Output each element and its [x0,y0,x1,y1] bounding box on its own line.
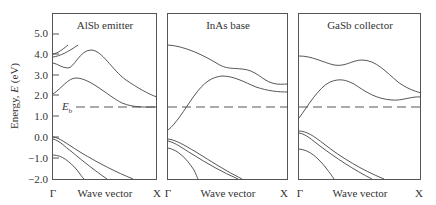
panel-title: AlSb emitter [77,19,134,31]
svg-text:4.0: 4.0 [34,48,48,60]
panel-frame [299,14,421,180]
x-axis-label: Wave vector [201,187,256,199]
x-axis-label: Wave vector [78,187,133,199]
band-curves [168,45,288,179]
panel-title: InAs base [206,19,250,31]
panel-frame [53,14,157,180]
y-tick-labels: 5.0 4.0 3.0 2.0 1.0 0.0 −1.0 −2.0 [28,27,48,185]
panel-frame [168,14,288,180]
panel-title: GaSb collector [327,19,393,31]
svg-text:1.0: 1.0 [34,110,48,122]
x-point-label: X [153,187,161,199]
panel-gasb-collector: GaSb collector Γ Wave vector X [297,14,423,200]
svg-text:3.0: 3.0 [34,69,48,81]
y-axis-label: Energy, E (eV) [8,63,21,129]
eb-label: Eb [61,100,73,115]
svg-text:2.0: 2.0 [34,89,48,101]
panel-alsb-emitter: AlSb emitter Eb Γ Wave vector X [50,14,161,200]
band-diagram-figure: Energy, E (eV) 5.0 4.0 3.0 2.0 1.0 0.0 −… [0,0,436,205]
band-curves [299,56,421,179]
svg-text:−1.0: −1.0 [28,152,48,164]
x-axis-label: Wave vector [333,187,388,199]
gamma-label: Γ [297,187,303,199]
x-point-label: X [280,187,288,199]
panel-inas-base: InAs base Γ Wave vector X [165,14,288,200]
x-point-label: X [415,187,423,199]
gamma-label: Γ [50,187,56,199]
svg-text:5.0: 5.0 [34,27,48,39]
svg-text:0.0: 0.0 [34,131,48,143]
svg-text:−2.0: −2.0 [28,173,48,185]
gamma-label: Γ [165,187,171,199]
